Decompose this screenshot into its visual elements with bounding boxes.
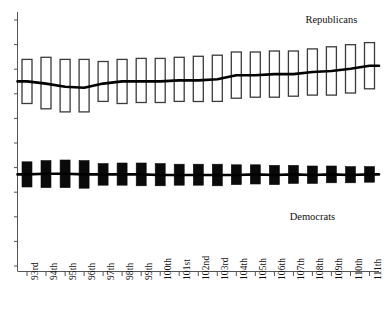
x-tick-label-95th: 95th [69, 263, 79, 280]
bar [98, 62, 108, 102]
republicans-series-label: Republicans [305, 14, 357, 25]
x-tick-label-96th: 96th [88, 263, 98, 280]
x-tick-label-106th: 106th [278, 258, 288, 280]
y-axis-ticks [14, 20, 18, 266]
x-tick-label-105th: 105th [259, 258, 269, 280]
x-tick-label-108th: 108th [316, 258, 326, 280]
bar [79, 59, 89, 112]
democrats-series-label: Democrats [290, 211, 335, 222]
x-tick-label-93rd: 93rd [31, 262, 41, 280]
x-tick-label-94th: 94th [50, 263, 60, 280]
x-tick-label-107th: 107th [297, 258, 307, 280]
x-tick-label-111th: 111th [374, 259, 384, 280]
republican-bars-group [22, 43, 375, 112]
x-tick-label-103rd: 103rd [221, 257, 231, 280]
x-tick-label-104th: 104th [240, 258, 250, 280]
x-tick-label-110th: 110th [355, 258, 365, 280]
x-tick-label-99th: 99th [145, 263, 155, 280]
x-tick-label-97th: 97th [107, 263, 117, 280]
chart-axes [14, 12, 379, 276]
x-tick-label-102nd: 102nd [202, 256, 212, 280]
congress-party-distribution-chart: Republicans Democrats 93rd94th95th96th97… [0, 0, 386, 313]
x-tick-label-101st: 101st [183, 259, 193, 280]
x-tick-label-109th: 109th [335, 258, 345, 280]
x-tick-label-98th: 98th [126, 263, 136, 280]
democrat-trendline [18, 174, 380, 175]
x-tick-label-100th: 100th [164, 258, 174, 280]
